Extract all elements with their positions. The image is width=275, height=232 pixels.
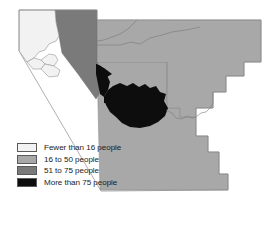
legend-item-fewer-than-16: Fewer than 16 people — [17, 142, 121, 153]
legend-label-more-than-75: More than 75 people — [44, 178, 117, 187]
legend-swatch-more-than-75 — [17, 178, 37, 187]
nevada-map — [0, 0, 275, 232]
legend-item-more-than-75: More than 75 people — [17, 177, 121, 188]
map-region-north-central-county — [97, 20, 167, 62]
map-legend: Fewer than 16 people 16 to 50 people 51 … — [17, 142, 121, 188]
legend-item-51-to-75: 51 to 75 people — [17, 165, 121, 176]
legend-item-16-to-50: 16 to 50 people — [17, 154, 121, 165]
legend-swatch-fewer-than-16 — [17, 143, 37, 152]
map-region-west-central-county — [55, 10, 99, 99]
legend-label-fewer-than-16: Fewer than 16 people — [44, 143, 121, 152]
choropleth-figure: Fewer than 16 people 16 to 50 people 51 … — [0, 0, 275, 232]
legend-swatch-51-to-75 — [17, 166, 37, 175]
legend-label-16-to-50: 16 to 50 people — [44, 155, 99, 164]
legend-label-51-to-75: 51 to 75 people — [44, 166, 99, 175]
map-region-west-small-county-c — [41, 64, 60, 77]
map-region-northwest-county — [19, 10, 59, 62]
legend-swatch-16-to-50 — [17, 155, 37, 164]
